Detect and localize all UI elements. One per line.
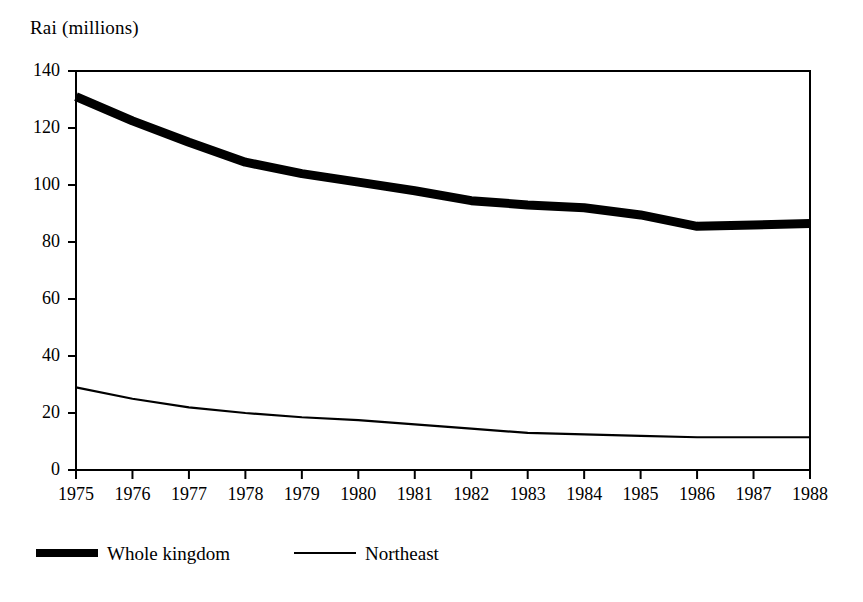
chart-plot-area: [0, 0, 863, 602]
x-tick-label: 1975: [46, 484, 106, 505]
x-tick-label: 1983: [498, 484, 558, 505]
x-tick-label: 1977: [159, 484, 219, 505]
y-tick-label: 100: [8, 174, 60, 195]
data-series-layer: [76, 97, 810, 438]
x-tick-label: 1985: [611, 484, 671, 505]
x-tick-label: 1979: [272, 484, 332, 505]
chart-figure: Rai (millions) 140120100806040200 197519…: [0, 0, 863, 602]
chart-legend: Whole kingdom Northeast: [36, 540, 596, 574]
y-tick-label: 60: [8, 288, 60, 309]
x-tick-label: 1978: [215, 484, 275, 505]
y-axis-ticks: [68, 71, 76, 470]
x-tick-label: 1980: [328, 484, 388, 505]
legend-label-northeast: Northeast: [365, 544, 439, 563]
x-tick-label: 1982: [441, 484, 501, 505]
x-tick-label: 1987: [724, 484, 784, 505]
x-tick-label: 1976: [102, 484, 162, 505]
x-axis-ticks: [76, 470, 810, 479]
x-tick-label: 1986: [667, 484, 727, 505]
y-tick-label: 40: [8, 345, 60, 366]
legend-swatch-thin-icon: [294, 552, 356, 554]
x-tick-label: 1984: [554, 484, 614, 505]
legend-entry-northeast: Northeast: [294, 540, 439, 566]
x-tick-label: 1988: [780, 484, 840, 505]
x-tick-label: 1981: [385, 484, 445, 505]
legend-label-whole-kingdom: Whole kingdom: [107, 544, 230, 563]
y-tick-label: 20: [8, 402, 60, 423]
legend-swatch-thick-icon: [36, 549, 98, 557]
y-tick-label: 80: [8, 231, 60, 252]
y-tick-label: 140: [8, 60, 60, 81]
y-tick-label: 120: [8, 117, 60, 138]
legend-entry-whole-kingdom: Whole kingdom: [36, 540, 230, 566]
plot-frame: [76, 71, 810, 470]
y-tick-label: 0: [8, 459, 60, 480]
